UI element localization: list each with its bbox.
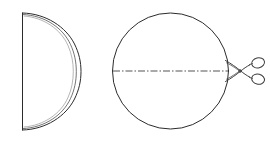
diagram-svg (0, 0, 270, 143)
scissors-handle-ring-upper (251, 56, 266, 69)
scissors-upper-blade (226, 61, 251, 78)
scissors-lower-blade (226, 65, 251, 82)
scissors-icon (226, 56, 266, 85)
half-disc-thickness-hairline (24, 16, 73, 127)
circle-shape (113, 13, 229, 129)
scissors-handle-ring-lower (251, 73, 266, 86)
half-disc-shape (23, 13, 82, 130)
half-disc-inner-arc (23, 15, 76, 129)
half-disc-outer-arc (23, 13, 82, 130)
diagram-canvas (0, 0, 270, 143)
